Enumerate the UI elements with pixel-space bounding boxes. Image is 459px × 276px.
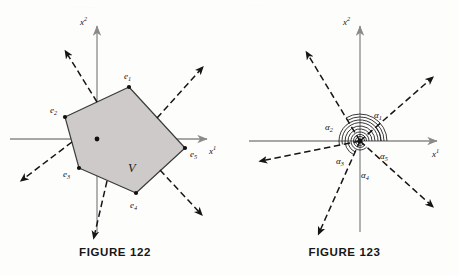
alpha-label-5: α5 [380,151,388,162]
vertex-label-e4: e4 [130,200,137,211]
normal-vector-1 [66,52,97,102]
convex-region-polygon [65,87,185,193]
figure-123: α1 α2 α3 α4 α5 x1 x2 FIGURE 123 [230,0,459,276]
vertex-dot-e5 [183,146,187,150]
normal-vector-3 [94,181,107,237]
vertex-dot-e4 [134,191,138,195]
alpha-label-3: α3 [336,156,344,167]
axis-label-x2-122: x2 [79,15,87,27]
origin-dot-123 [357,138,362,143]
figure-page: . . . . . . . . . . . . . . [0,0,459,276]
figure-122: e1 e2 e3 e4 e5 V x1 x2 FIGURE [0,0,230,276]
vertex-dot-e1 [127,85,131,89]
axis-label-x1-122: x1 [208,144,216,156]
figure-122-caption: FIGURE 122 [0,246,230,258]
alpha-label-2: α2 [325,122,333,133]
axis-label-x2-123: x2 [342,15,350,27]
figure-123-caption: FIGURE 123 [230,246,459,258]
vertex-label-e1: e1 [124,71,131,82]
vertex-label-e2: e2 [50,105,57,116]
vertex-dot-e2 [63,115,67,119]
vertex-dot-e3 [77,166,81,170]
origin-dot-122 [95,137,100,142]
alpha-ray-5 [360,141,432,206]
axis-label-x1-123: x1 [431,147,439,159]
figure-122-canvas: e1 e2 e3 e4 e5 V x1 x2 [0,0,230,244]
figure-123-canvas: α1 α2 α3 α4 α5 x1 x2 [230,0,459,244]
alpha-label-4: α4 [361,170,369,181]
alpha-label-1: α1 [374,110,382,121]
vertex-label-e3: e3 [63,169,70,180]
normal-vector-4 [160,170,201,214]
normal-vector-5 [157,68,202,118]
vertex-label-e5: e5 [190,149,197,160]
alpha-ray-1 [360,78,432,141]
alpha-rays-123 [261,53,432,233]
